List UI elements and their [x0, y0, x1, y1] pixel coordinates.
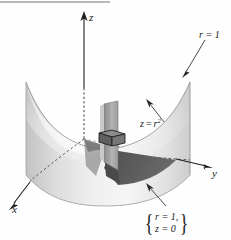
- brace-left: {: [145, 212, 154, 234]
- y-axis-label: y: [212, 168, 217, 179]
- x-axis-label: x: [12, 204, 17, 215]
- base-region-brace-label: { r = 1, z = 0 }: [143, 211, 190, 235]
- leader-line-cylinder: [186, 40, 205, 72]
- x-axis-line: [14, 182, 30, 203]
- brace-right: }: [180, 212, 189, 234]
- base-region-line-1: r = 1,: [155, 211, 178, 223]
- cylinder-equation-label: r = 1: [199, 30, 220, 40]
- surface-equation-label: z = r2: [140, 118, 161, 129]
- figure-canvas: [0, 0, 231, 240]
- surface-equation-exponent: 2: [157, 117, 160, 124]
- base-region-rows: r = 1, z = 0: [155, 211, 178, 235]
- base-region-line-2: z = 0: [155, 223, 178, 235]
- z-axis-label: z: [89, 12, 93, 23]
- math-figure-paraboloid: z y x r = 1 z = r2 { r = 1, z = 0 }: [0, 0, 231, 240]
- leader-arrow-surface: [146, 99, 154, 108]
- leader-arrow-cylinder: [182, 68, 190, 78]
